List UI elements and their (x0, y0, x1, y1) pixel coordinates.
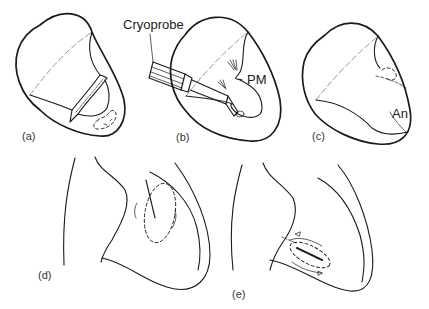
cryolesion-outline-d (140, 181, 180, 245)
cryoprobe-procedure-diagram (0, 0, 429, 309)
panel-label-b: (b) (176, 132, 189, 143)
pm-label: PM (247, 73, 267, 86)
panel-c-heart (303, 23, 411, 144)
incision-retractor (70, 75, 107, 122)
panel-label-d: (d) (38, 270, 51, 281)
panel-e-view (231, 163, 372, 291)
panel-label-a: (a) (22, 131, 35, 142)
cryoprobe-label: Cryoprobe (123, 18, 184, 31)
panel-label-e: (e) (232, 289, 245, 300)
panel-label-c: (c) (312, 131, 325, 142)
panel-d-view (64, 157, 210, 289)
cryoprobe-instrument (149, 62, 244, 117)
cryolesion-outline-a (94, 110, 116, 129)
panel-a-heart (16, 14, 125, 136)
an-label: An (392, 107, 408, 120)
linear-lesion-e (297, 248, 322, 260)
ablation-site-c (382, 68, 396, 80)
